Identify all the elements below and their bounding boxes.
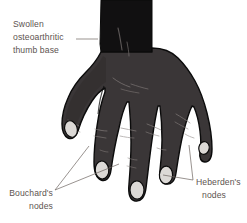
ring-nail	[159, 166, 173, 184]
swollen-thumb-base-line-2: thumb base	[13, 45, 59, 55]
swollen-thumb-base-line-1: osteoarthritic	[13, 32, 64, 42]
middle-nail	[130, 181, 145, 200]
bouchards-nodes-line-0: Bouchard's	[9, 188, 53, 198]
bouchards-nodes-line-1: nodes	[29, 201, 53, 211]
swollen-thumb-base-line-0: Swollen	[13, 19, 44, 29]
osteoarthritic-hand-figure: Swollen osteoarthritic thumb base Boucha…	[0, 0, 247, 223]
heberdens-nodes-line-0: Heberden's	[196, 177, 241, 187]
heberdens-nodes-line-1: nodes	[202, 190, 226, 200]
